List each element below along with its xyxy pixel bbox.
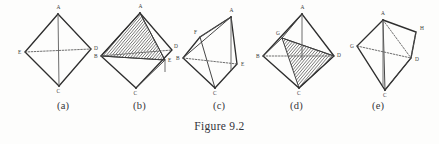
outline-c — [183, 17, 237, 88]
panel-caption-a: (a) — [57, 100, 69, 111]
vertex-dot — [58, 85, 60, 87]
figure-panel-d: A G B D C — [255, 0, 343, 100]
vertex-label-e-1: H — [420, 25, 424, 31]
vertex-label-d-3: D — [337, 52, 341, 58]
vertex-dot — [57, 13, 59, 15]
vertex-label-c-4: C — [213, 90, 217, 96]
vertex-dot — [298, 87, 300, 89]
vertex-label-b-0: A — [139, 3, 143, 9]
vertex-dot — [139, 12, 141, 14]
vertex-label-a-3: C — [57, 88, 61, 94]
axis-a — [58, 14, 59, 86]
vertex-label-c-0: A — [230, 7, 234, 13]
vertex-label-b-3: C — [134, 90, 138, 96]
vertex-label-c-1: F — [194, 29, 197, 35]
vertex-label-a-1: E — [18, 49, 22, 55]
hidden-edge-hd — [411, 32, 416, 58]
hidden-diagonal-c — [183, 58, 237, 64]
outline-e — [357, 20, 416, 90]
vertex-dot — [230, 16, 232, 18]
diagram-d: A G B D C — [255, 0, 343, 100]
vertex-label-b-1: B — [94, 53, 98, 59]
vertex-label-b-2: E — [168, 57, 172, 63]
vertex-dot — [301, 13, 303, 15]
vertex-dot — [135, 87, 137, 89]
vertex-label-e-2: G — [350, 43, 354, 49]
figure-page: A E D C A B E C D — [0, 0, 439, 144]
edge-a-b — [183, 17, 231, 58]
panel-caption-d: (d) — [290, 100, 303, 111]
panel-caption-row: (a) (b) (c) (d) (e) — [0, 100, 439, 122]
figure-panel-c: A F B E C — [173, 0, 261, 100]
vertex-label-d-0: A — [301, 4, 305, 10]
diagram-b: A B E C D — [92, 0, 180, 100]
figure-title: Figure 9.2 — [0, 120, 439, 132]
vertex-dot — [214, 87, 216, 89]
vertex-dot — [382, 19, 384, 21]
diagram-c: A F B E C — [173, 0, 261, 100]
vertex-label-e-3: D — [415, 56, 419, 62]
figure-panel-e: A H G D C — [345, 0, 433, 100]
figure-panel-b: A B E C D — [92, 0, 180, 100]
vertex-label-d-2: B — [256, 53, 260, 59]
vertex-label-c-3: E — [241, 61, 245, 67]
vertex-label-e-0: A — [381, 10, 385, 16]
vertex-label-d-4: C — [297, 90, 301, 96]
panel-caption-c: (c) — [213, 100, 225, 111]
vertex-label-c-2: B — [176, 55, 180, 61]
panel-caption-e: (e) — [372, 100, 384, 111]
panel-caption-b: (b) — [133, 100, 146, 111]
edge-d-c — [385, 58, 411, 90]
vertex-label-e-4: C — [383, 92, 387, 98]
vertex-label-d-1: G — [276, 30, 280, 36]
vertex-label-a-0: A — [57, 4, 61, 10]
diagram-a: A E D C — [14, 0, 102, 100]
vertex-dot — [384, 89, 386, 91]
diagram-e: A H G D C — [345, 0, 433, 100]
figure-panel-a: A E D C — [14, 0, 102, 100]
